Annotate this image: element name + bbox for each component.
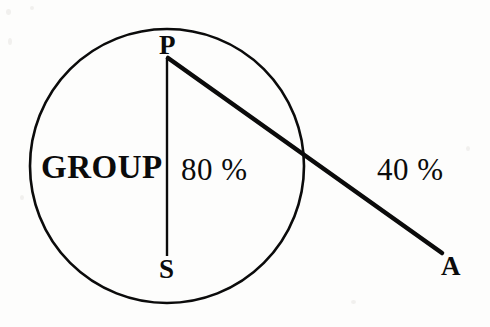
inner-percent-label: 80 % bbox=[181, 154, 248, 185]
outer-percent-label: 40 % bbox=[377, 154, 444, 185]
group-text-label: GROUP bbox=[41, 151, 163, 184]
point-label-a: A bbox=[441, 253, 461, 280]
point-label-p: P bbox=[159, 32, 176, 59]
diagram-canvas: P S A GROUP 80 % 40 % bbox=[0, 0, 490, 327]
point-label-s: S bbox=[159, 256, 174, 283]
